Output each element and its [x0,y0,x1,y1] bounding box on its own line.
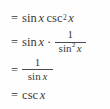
variable-x-2b: x [75,42,81,54]
sin-function-den-2: sin [59,42,72,54]
variable-x-4: x [38,89,45,102]
fraction-numerator-3: 1 [32,57,44,69]
derivation-step-4: = csc x [11,84,110,106]
fraction-numerator-2: 1 [64,29,76,41]
fraction-step-3: 1 sinx [22,57,53,82]
sin-function-den-3: sin [28,70,41,82]
equals-sign-3: = [11,64,22,77]
equals-sign-4: = [11,89,22,102]
fraction-denominator-3: sinx [25,70,51,82]
equals-sign-1: = [11,12,22,25]
variable-x-3: x [41,70,47,82]
equals-sign-2: = [11,36,22,49]
derivation-step-1: = sin x csc2 x [11,7,110,29]
csc-function-4: csc [22,89,38,102]
variable-x-1b: x [67,12,74,25]
derivation-step-2: = sin x · 1 sin2x [11,29,110,56]
variable-x-1a: x [37,12,44,25]
fraction-denominator-2: sin2x [56,43,85,55]
derivation-step-3: = 1 sinx [11,56,110,84]
variable-x-2a: x [37,36,44,49]
sin-function-1: sin [22,12,37,25]
csc-function-1: csc [46,12,62,25]
multiplication-dot-icon: · [44,36,55,49]
math-derivation-block: = sin x csc2 x = sin x · 1 sin2x = 1 sin… [0,0,110,109]
sin-function-2: sin [22,36,37,49]
fraction-step-2: 1 sin2x [55,29,86,54]
